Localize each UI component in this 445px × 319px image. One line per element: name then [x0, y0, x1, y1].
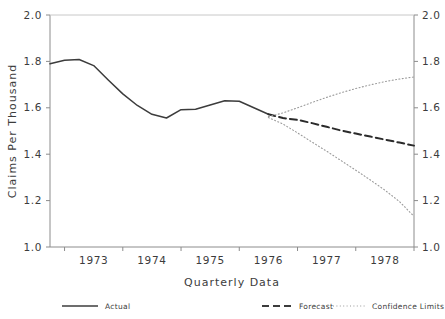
y-axis-tick-label-right: 1.6: [422, 101, 441, 113]
x-axis-tick-label: 1976: [254, 254, 283, 266]
legend-label-actual: Actual: [105, 302, 130, 311]
y-axis-tick-label-left: 1.4: [24, 148, 43, 160]
legend-label-forecast: Forecast: [299, 302, 333, 311]
forecast-line-chart: 1.01.21.41.61.82.0 1.01.21.41.61.82.0 19…: [0, 0, 445, 319]
y-axis-tick-label-right: 2.0: [422, 9, 441, 21]
y-axis-tick-label-right: 1.4: [422, 148, 441, 160]
x-axis-title: Quarterly Data: [184, 276, 280, 289]
chart-background: [0, 0, 445, 319]
y-axis-tick-label-right: 1.8: [422, 55, 441, 67]
legend-label-confidence-limits: Confidence Limits: [372, 302, 444, 311]
y-axis-tick-label-left: 1.6: [24, 101, 43, 113]
y-axis-tick-label-left: 1.2: [24, 194, 43, 206]
y-axis-tick-label-left: 2.0: [24, 9, 43, 21]
y-axis-tick-label-left: 1.8: [24, 55, 43, 67]
x-axis-tick-label: 1975: [196, 254, 225, 266]
x-axis-tick-label: 1978: [370, 254, 399, 266]
y-axis-title: Claims Per Thousand: [6, 64, 19, 198]
y-axis-tick-label-right: 1.2: [422, 194, 441, 206]
y-axis-tick-label-left: 1.0: [24, 241, 43, 253]
x-axis-tick-label: 1977: [312, 254, 341, 266]
x-axis-tick-label: 1974: [137, 254, 166, 266]
chart-container: 1.01.21.41.61.82.0 1.01.21.41.61.82.0 19…: [0, 0, 445, 319]
y-axis-tick-label-right: 1.0: [422, 241, 441, 253]
x-axis-tick-label: 1973: [79, 254, 108, 266]
